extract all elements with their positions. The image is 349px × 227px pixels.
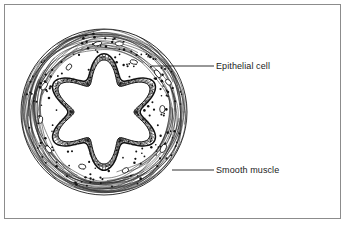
muscle-nucleus <box>39 86 41 88</box>
muscle-nucleus <box>51 131 53 133</box>
epithelial-nucleus <box>122 83 123 84</box>
muscle-nucleus <box>73 53 75 55</box>
muscle-nucleus <box>88 69 90 71</box>
muscle-nucleus <box>45 162 47 164</box>
epithelial-nucleus <box>57 82 59 84</box>
epithelial-nucleus <box>67 107 68 108</box>
muscle-nucleus <box>60 61 62 63</box>
muscle-nucleus <box>130 175 132 177</box>
epithelial-nucleus <box>151 138 153 140</box>
muscle-nucleus <box>137 183 139 185</box>
epithelial-nucleus <box>119 141 121 143</box>
muscle-nucleus <box>172 87 174 89</box>
muscle-nucleus <box>175 145 177 147</box>
epithelial-nucleus <box>117 77 119 79</box>
muscle-nucleus <box>92 178 94 180</box>
muscle-nucleus <box>51 69 53 71</box>
muscle-nucleus <box>33 100 35 102</box>
muscle-nucleus <box>40 82 43 85</box>
muscle-nucleus <box>49 75 51 77</box>
muscle-nucleus <box>180 91 182 93</box>
muscle-nucleus <box>112 38 114 40</box>
epithelial-nucleus <box>88 141 89 142</box>
epithelial-nucleus <box>100 165 101 166</box>
muscle-nucleus <box>139 177 142 180</box>
epithelial-nucleus <box>145 121 147 123</box>
muscle-nucleus <box>161 67 163 69</box>
muscle-nucleus <box>170 130 172 132</box>
oval-nucleus <box>115 41 123 46</box>
muscle-nucleus <box>85 35 87 37</box>
muscle-nucleus <box>122 157 124 159</box>
muscle-nucleus <box>57 75 59 77</box>
muscle-nucleus <box>85 41 87 43</box>
muscle-nucleus <box>100 182 102 184</box>
oval-nucleus <box>159 105 165 113</box>
epithelial-nucleus <box>82 83 83 84</box>
muscle-nucleus <box>128 63 130 65</box>
muscle-nucleus <box>129 76 131 78</box>
epithelial-nucleus <box>70 110 72 112</box>
muscle-nucleus <box>26 93 28 95</box>
muscle-nucleus <box>89 181 91 183</box>
muscle-nucleus <box>56 161 58 163</box>
muscle-nucleus <box>55 165 57 167</box>
muscle-nucleus <box>159 88 161 90</box>
muscle-nucleus <box>89 177 91 179</box>
muscle-nucleus <box>45 89 47 91</box>
epithelial-nucleus <box>89 80 91 82</box>
muscle-nucleus <box>99 177 101 179</box>
muscle-nucleus <box>162 85 164 87</box>
muscle-nucleus <box>104 37 106 39</box>
cross-section-diagram <box>0 0 349 227</box>
epithelial-nucleus <box>100 57 102 59</box>
muscle-nucleus <box>67 151 69 153</box>
muscle-nucleus <box>150 146 152 148</box>
muscle-nucleus <box>137 175 139 177</box>
muscle-nucleus <box>52 149 54 151</box>
muscle-nucleus <box>161 74 163 76</box>
muscle-nucleus <box>172 137 174 139</box>
muscle-nucleus <box>176 142 178 144</box>
epithelial-nucleus <box>115 69 117 71</box>
muscle-nucleus <box>71 150 73 152</box>
epithelial-nucleus <box>111 161 112 162</box>
epithelial-nucleus <box>137 114 139 116</box>
epithelial-nucleus <box>79 141 80 142</box>
muscle-nucleus <box>151 101 153 103</box>
tissue-group <box>21 29 187 195</box>
epithelial-nucleus <box>57 95 59 97</box>
epithelial-nucleus <box>135 80 136 81</box>
epithelial-nucleus <box>57 128 59 130</box>
epithelial-nucleus <box>106 165 108 167</box>
muscle-nucleus <box>94 167 96 169</box>
muscle-nucleus <box>68 165 70 167</box>
epithelial-nucleus <box>151 84 153 86</box>
muscle-nucleus <box>144 156 146 158</box>
label-smooth-muscle: Smooth muscle <box>216 165 279 175</box>
epithelial-nucleus <box>149 128 150 129</box>
muscle-nucleus <box>157 124 159 126</box>
muscle-nucleus <box>156 165 158 167</box>
epithelial-nucleus <box>150 140 152 142</box>
muscle-nucleus <box>36 101 38 103</box>
label-epithelial-cell: Epithelial cell <box>216 61 270 71</box>
muscle-nucleus <box>160 114 162 116</box>
muscle-nucleus <box>51 146 53 148</box>
muscle-nucleus <box>141 152 143 154</box>
muscle-nucleus <box>107 170 110 173</box>
muscle-nucleus <box>52 124 54 126</box>
muscle-nucleus <box>126 64 128 66</box>
epithelial-nucleus <box>66 79 68 81</box>
muscle-nucleus <box>75 183 77 185</box>
epithelial-nucleus <box>117 146 119 148</box>
muscle-nucleus <box>140 163 142 165</box>
muscle-nucleus <box>41 61 43 63</box>
muscle-nucleus <box>93 36 96 39</box>
muscle-nucleus <box>165 108 168 111</box>
muscle-nucleus <box>155 154 157 156</box>
epithelial-nucleus <box>54 135 55 136</box>
muscle-nucleus <box>161 95 163 97</box>
epithelial-nucleus <box>124 83 125 84</box>
epithelial-nucleus <box>92 69 94 71</box>
